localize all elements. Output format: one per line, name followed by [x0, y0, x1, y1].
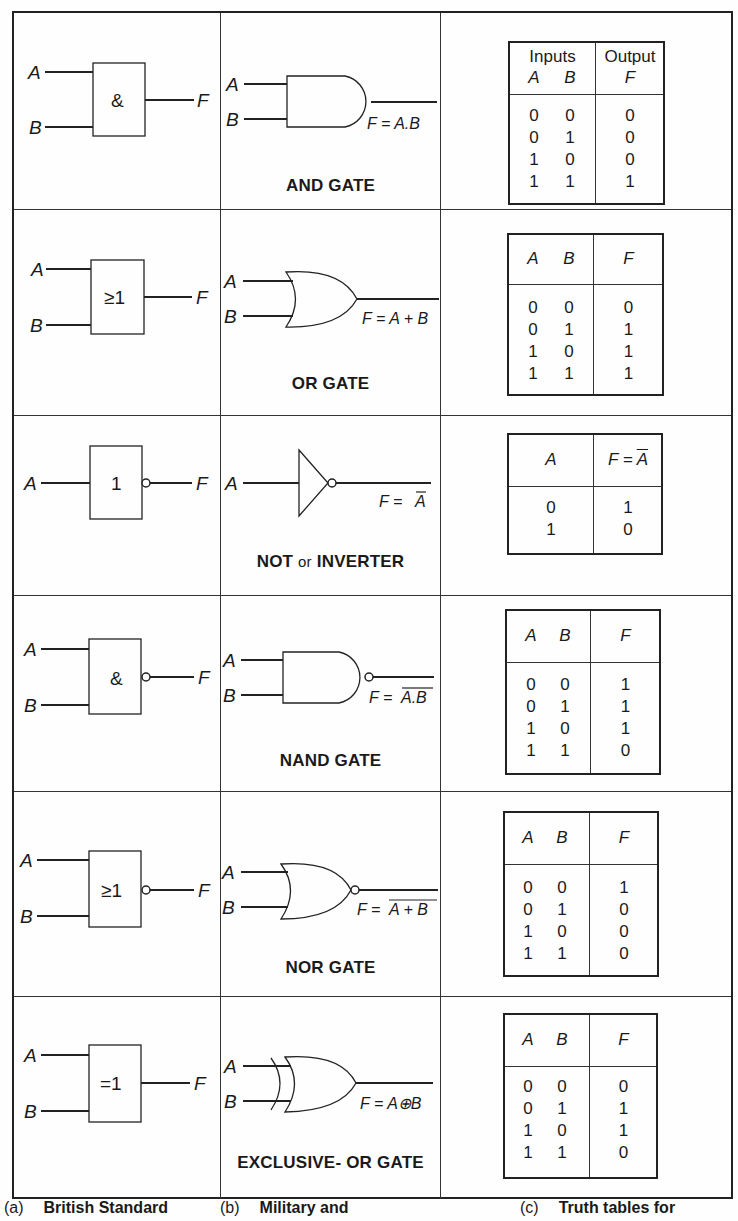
svg-text:A: A [19, 850, 33, 871]
bs-or-symbol-cell: A B F ≥1 [14, 210, 221, 415]
svg-text:A: A [223, 271, 237, 292]
bs-or-symbol-icon: A B F ≥1 [14, 210, 221, 416]
svg-text:B: B [30, 315, 43, 336]
bs-nand-symbol-cell: A B F & [14, 596, 221, 791]
svg-text:A: A [222, 650, 236, 671]
svg-text:A + B: A + B [388, 901, 428, 918]
nand-truth-table: A B F 0 0 1 1 0 1 0 1 1 1 1 0 [505, 609, 661, 775]
mil-nand-symbol-cell: A B F = A.B NAND GATE [221, 596, 441, 791]
bs-nor-symbol-icon: A B F ≥1 [14, 792, 221, 997]
bs-xor-symbol-cell: A B F =1 [14, 997, 221, 1199]
svg-text:F: F [194, 1073, 207, 1094]
bs-xor-symbol-icon: A B F =1 [14, 997, 221, 1199]
bs-not-symbol-icon: A F 1 [14, 416, 221, 596]
gate-name: EXCLUSIVE- OR GATE [221, 1153, 440, 1173]
svg-text:A: A [225, 74, 239, 95]
svg-text:F =: F = [357, 901, 385, 918]
caption-a: (a)British Standard [4, 1199, 168, 1217]
svg-text:F: F [198, 880, 211, 901]
not-truth-table-cell: A F = A 0 1 1 0 [441, 416, 731, 595]
svg-text:F =: F = [369, 689, 397, 706]
svg-text:A: A [27, 62, 41, 83]
svg-text:A: A [30, 259, 44, 280]
mil-not-symbol-cell: A F = A NOT or INVERTER [221, 416, 441, 595]
logic-gates-figure: A B F & A B F = A.B AND GATE Inputs [12, 11, 733, 1199]
svg-text:B: B [24, 1101, 37, 1122]
row-xor-gate: A B F =1 A B F = A⊕B EXCLUSIVE- OR GATE [14, 997, 731, 1199]
svg-text:A: A [23, 473, 37, 494]
bs-nand-symbol-icon: A B F & [14, 596, 221, 792]
svg-text:F: F [197, 90, 210, 111]
svg-text:A: A [414, 493, 426, 510]
gate-name: NAND GATE [221, 751, 440, 771]
bs-and-symbol-cell: A B F & [14, 13, 221, 209]
row-or-gate: A B F ≥1 A B F = A + B OR GATE A [14, 210, 731, 416]
xor-truth-table-cell: A B F 0 0 1 1 0 1 0 1 0 1 1 0 [441, 997, 731, 1199]
svg-text:B: B [29, 117, 42, 138]
svg-text:F = A⊕B: F = A⊕B [360, 1095, 422, 1112]
svg-text:A: A [221, 862, 235, 883]
mil-xor-symbol-cell: A B F = A⊕B EXCLUSIVE- OR GATE [221, 997, 441, 1199]
nor-truth-table: A B F 0 0 1 1 0 1 0 1 1 0 0 0 [503, 811, 659, 977]
xor-truth-table: A B F 0 0 1 1 0 1 0 1 0 1 1 0 [503, 1013, 658, 1179]
svg-text:B: B [20, 906, 33, 927]
mil-or-symbol-cell: A B F = A + B OR GATE [221, 210, 441, 415]
svg-text:A.B: A.B [400, 689, 427, 706]
svg-text:F = A + B: F = A + B [362, 310, 428, 327]
col-b: 0 1 0 1 [560, 105, 580, 193]
svg-text:F = A.B: F = A.B [367, 115, 420, 132]
col-a: 0 0 1 1 [524, 105, 544, 193]
gate-name: NOT or INVERTER [221, 552, 440, 572]
svg-text:A: A [23, 639, 37, 660]
svg-text:F: F [196, 287, 209, 308]
svg-text:≥1: ≥1 [101, 880, 122, 901]
bs-not-symbol-cell: A F 1 [14, 416, 221, 595]
svg-text:&: & [110, 668, 123, 689]
svg-text:B: B [224, 306, 237, 327]
nand-truth-table-cell: A B F 0 0 1 1 0 1 0 1 1 1 1 0 [441, 596, 731, 791]
not-truth-table: A F = A 0 1 1 0 [507, 433, 663, 555]
svg-text:1: 1 [111, 473, 122, 494]
svg-text:B: B [224, 1091, 237, 1112]
svg-text:B: B [222, 897, 235, 918]
svg-text:B: B [24, 695, 37, 716]
svg-text:B: B [226, 109, 239, 130]
svg-text:F: F [196, 473, 209, 494]
svg-text:F =: F = [379, 493, 407, 510]
gate-name: AND GATE [221, 176, 440, 196]
gate-name: OR GATE [221, 374, 440, 394]
col-f: 0 0 0 1 [595, 105, 665, 193]
svg-text:≥1: ≥1 [104, 287, 125, 308]
gate-name: NOR GATE [221, 958, 440, 978]
svg-text:&: & [111, 90, 124, 111]
svg-text:A: A [23, 1045, 37, 1066]
mil-and-symbol-cell: A B F = A.B AND GATE [221, 13, 441, 209]
row-nor-gate: A B F ≥1 A B F = A + B NOR GATE [14, 792, 731, 997]
svg-text:A: A [223, 1056, 237, 1077]
output-header: Output [595, 47, 665, 67]
svg-text:B: B [223, 685, 236, 706]
bs-and-symbol-icon: A B F & [14, 13, 221, 210]
caption-c: (c)Truth tables for [520, 1199, 675, 1217]
row-nand-gate: A B F & A B F = A.B NAND GATE [14, 596, 731, 792]
or-truth-table-cell: A B F 0 0 1 1 0 1 0 1 0 1 1 1 [441, 210, 731, 415]
inputs-header: Inputs [510, 47, 595, 67]
row-and-gate: A B F & A B F = A.B AND GATE Inputs [14, 13, 731, 210]
svg-text:F: F [198, 667, 211, 688]
mil-nor-symbol-cell: A B F = A + B NOR GATE [221, 792, 441, 996]
or-truth-table: A B F 0 0 1 1 0 1 0 1 0 1 1 1 [507, 233, 664, 396]
svg-text:=1: =1 [100, 1073, 122, 1094]
row-not-gate: A F 1 A F = A NOT or INVERTER [14, 416, 731, 596]
caption-b: (b)Military and [220, 1199, 348, 1217]
nor-truth-table-cell: A B F 0 0 1 1 0 1 0 1 1 0 0 0 [441, 792, 731, 996]
svg-text:A: A [224, 473, 238, 494]
bs-nor-symbol-cell: A B F ≥1 [14, 792, 221, 996]
and-truth-table-cell: Inputs Output A B F 0 0 1 1 0 1 0 1 0 0 … [441, 13, 731, 209]
and-truth-table: Inputs Output A B F 0 0 1 1 0 1 0 1 0 0 … [508, 41, 665, 205]
